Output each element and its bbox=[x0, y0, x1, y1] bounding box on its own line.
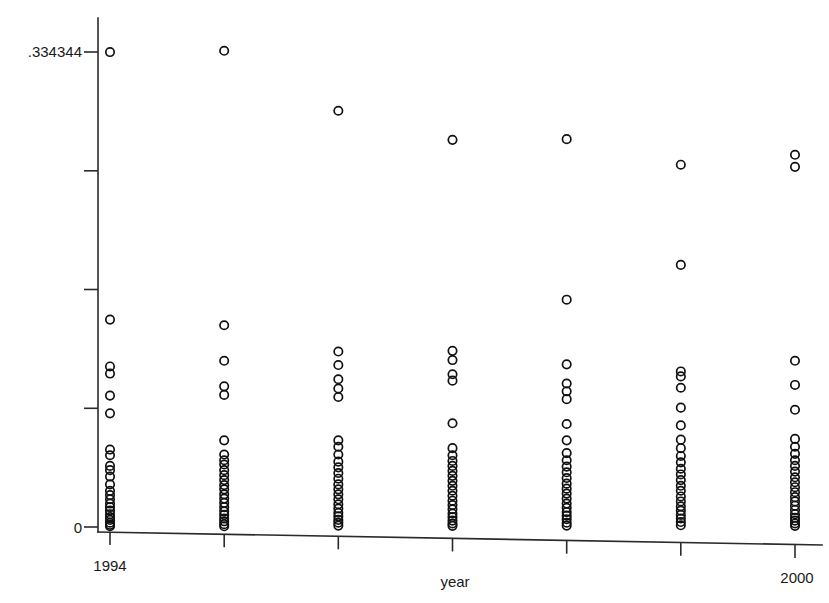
data-point bbox=[677, 403, 685, 411]
data-point bbox=[106, 315, 114, 323]
data-point bbox=[677, 435, 685, 443]
x-axis-line bbox=[98, 532, 822, 545]
scatter-plot-figure: .334344 0 1994 2000 year bbox=[0, 0, 829, 603]
data-point bbox=[334, 393, 342, 401]
x-axis-ticks bbox=[110, 532, 795, 558]
x-axis-right-tick-label: 2000 bbox=[780, 569, 813, 586]
data-point bbox=[677, 261, 685, 269]
plot-canvas: .334344 0 1994 2000 year bbox=[0, 0, 829, 603]
data-point bbox=[448, 347, 456, 355]
data-point bbox=[220, 321, 228, 329]
data-point bbox=[220, 436, 228, 444]
y-axis-top-tick-label: .334344 bbox=[28, 43, 82, 60]
x-axis-title: year bbox=[440, 573, 469, 590]
data-point bbox=[677, 421, 685, 429]
data-point bbox=[220, 47, 228, 55]
data-point bbox=[334, 347, 342, 355]
data-point bbox=[791, 381, 799, 389]
data-point bbox=[334, 375, 342, 383]
data-point bbox=[106, 409, 114, 417]
data-point bbox=[334, 384, 342, 392]
data-point bbox=[220, 357, 228, 365]
data-point bbox=[334, 361, 342, 369]
data-point bbox=[562, 360, 570, 368]
data-point bbox=[106, 391, 114, 399]
data-point bbox=[448, 136, 456, 144]
data-point bbox=[220, 391, 228, 399]
axis-group bbox=[98, 18, 822, 545]
y-axis-ticks bbox=[84, 52, 98, 527]
data-point bbox=[562, 135, 570, 143]
data-point bbox=[448, 356, 456, 364]
data-point bbox=[334, 107, 342, 115]
data-point bbox=[562, 420, 570, 428]
data-point bbox=[106, 451, 114, 459]
data-point bbox=[448, 419, 456, 427]
data-point bbox=[562, 295, 570, 303]
data-point bbox=[791, 357, 799, 365]
data-point bbox=[677, 161, 685, 169]
data-point bbox=[562, 436, 570, 444]
x-axis-left-tick-label: 1994 bbox=[93, 557, 126, 574]
data-point bbox=[791, 163, 799, 171]
data-point bbox=[791, 151, 799, 159]
data-point bbox=[677, 384, 685, 392]
data-point bbox=[220, 382, 228, 390]
data-point bbox=[106, 48, 114, 56]
y-axis-bottom-tick-label: 0 bbox=[74, 519, 82, 536]
data-point-group bbox=[106, 47, 799, 531]
data-point bbox=[791, 406, 799, 414]
